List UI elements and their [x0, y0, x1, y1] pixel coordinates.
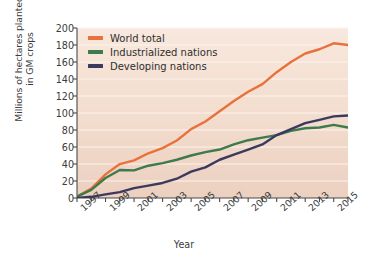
legend-swatch-developing-nations: [88, 64, 103, 67]
legend-swatch-world-total: [88, 36, 103, 39]
legend-item: Developing nations: [88, 59, 258, 73]
chart-figure: Millions of hectares planted in GM crops…: [0, 0, 368, 263]
legend-label-developing-nations: Developing nations: [110, 61, 207, 72]
legend-label-industrialized-nations: Industrialized nations: [110, 47, 217, 58]
legend-item: Industrialized nations: [88, 45, 258, 59]
legend-label-world-total: World total: [110, 33, 165, 44]
legend-item: World total: [88, 31, 258, 45]
chart-legend: World total Industrialized nations Devel…: [88, 31, 258, 73]
legend-swatch-industrialized-nations: [88, 50, 103, 53]
y-axis-ticks: [73, 28, 77, 198]
x-axis-title: Year: [0, 239, 368, 250]
